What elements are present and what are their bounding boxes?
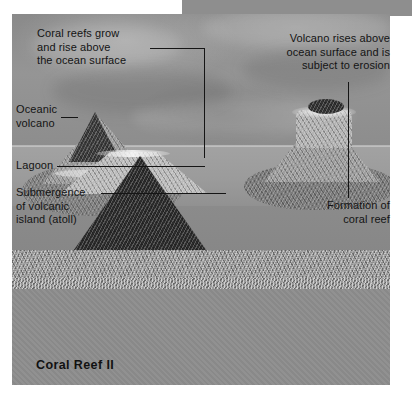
right-volcano-crater: [308, 99, 344, 114]
leader-coral-reefs-grow-vertical: [204, 48, 205, 158]
leader-lagoon: [57, 166, 205, 167]
leader-submergence: [101, 193, 226, 194]
figure-title: Coral Reef II: [36, 358, 114, 372]
coral-reef-diagram: Coral reefs grow and rise above the ocea…: [0, 0, 412, 398]
leader-volcano-rises-above-vertical: [348, 82, 349, 198]
leader-oceanic-volcano: [61, 117, 78, 118]
center-reef-crest-highlight: [96, 150, 170, 157]
leader-coral-reefs-grow-horizontal: [150, 48, 205, 49]
annotation-formation-of-coral-reef: Formation of coral reef: [290, 199, 390, 226]
annotation-submergence: Submergence of volcanic island (atoll): [16, 186, 108, 227]
annotation-volcano-rises-above: Volcano rises above ocean surface and is…: [238, 32, 390, 73]
